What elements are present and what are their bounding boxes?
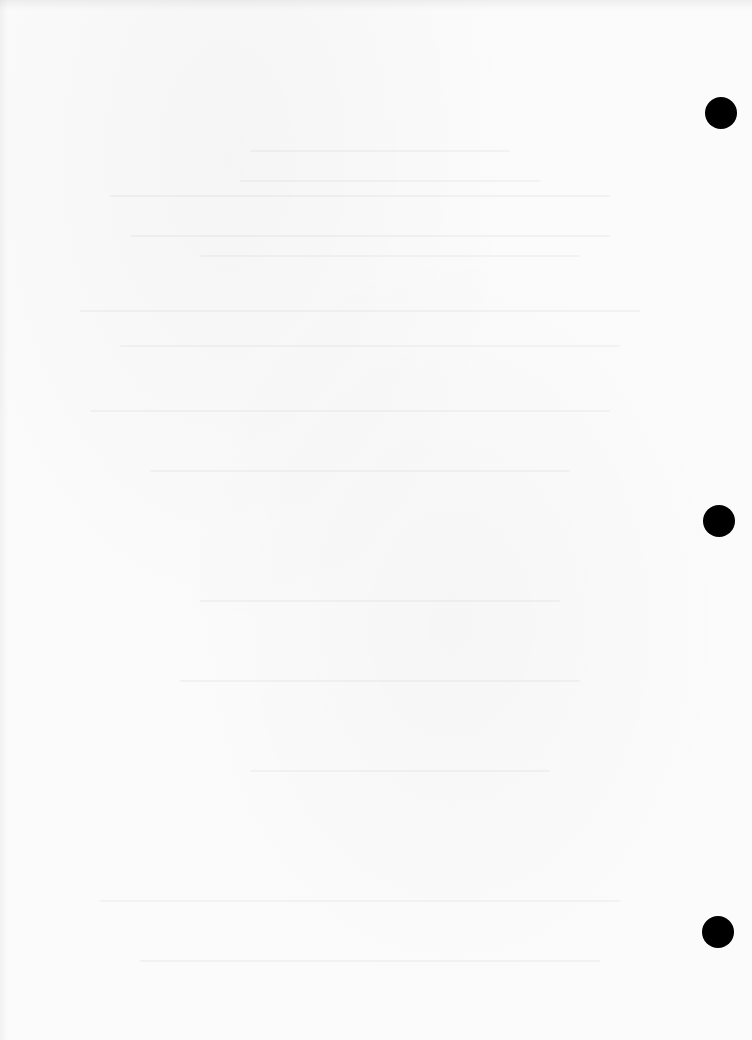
bleed-through-mark: [120, 345, 620, 347]
punch-hole-bottom: [702, 916, 734, 948]
punch-hole-top: [705, 97, 737, 129]
bleed-through-mark: [250, 150, 510, 152]
bleed-through-mark: [140, 960, 600, 962]
bleed-through-mark: [150, 470, 570, 472]
bleed-through-mark: [90, 410, 610, 412]
bleed-through-mark: [180, 680, 580, 682]
bleed-through-mark: [110, 195, 610, 197]
bleed-through-mark: [130, 235, 610, 237]
bleed-through-mark: [250, 770, 550, 772]
bleed-through-mark: [200, 255, 580, 257]
punch-hole-middle: [703, 505, 735, 537]
bleed-through-mark: [200, 600, 560, 602]
scanned-blank-page: [0, 0, 752, 1040]
bleed-through-mark: [240, 180, 540, 182]
bleed-through-mark: [80, 310, 640, 312]
bleed-through-mark: [100, 900, 620, 902]
